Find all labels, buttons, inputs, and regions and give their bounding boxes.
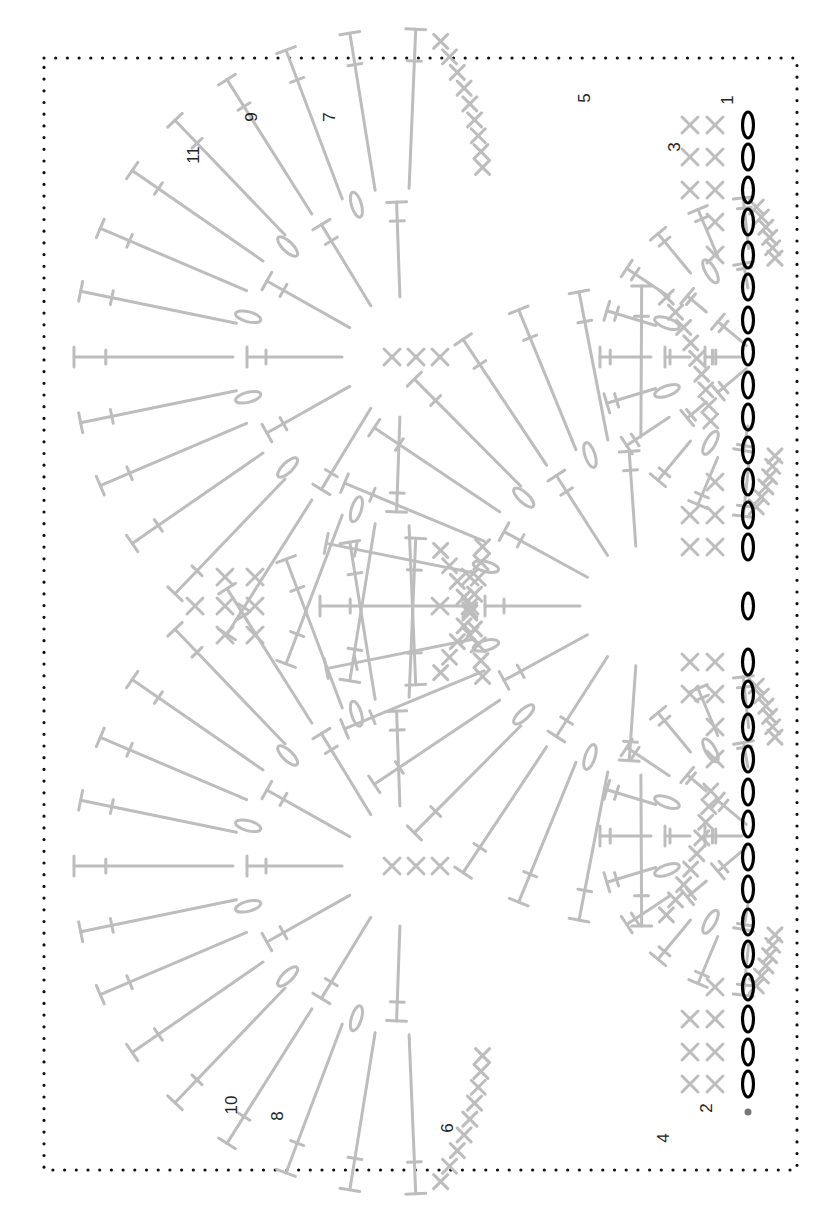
sc-stitch-icon bbox=[682, 182, 698, 198]
sc-stitch-icon bbox=[682, 654, 698, 670]
dc-stitch-icon bbox=[168, 479, 285, 601]
sc-stitch-icon bbox=[704, 414, 718, 428]
dc-stitch-icon bbox=[407, 372, 521, 486]
dc-stitch-icon bbox=[665, 347, 690, 367]
sc-stitch-icon bbox=[217, 569, 233, 585]
dc-stitch-icon bbox=[387, 926, 407, 1021]
dc-stitch-icon bbox=[604, 301, 656, 325]
row-label-3: 3 bbox=[665, 142, 684, 151]
chain-stitch-icon bbox=[348, 700, 365, 728]
dc-stitch-icon bbox=[681, 288, 707, 312]
dc-stitch-icon bbox=[341, 671, 484, 738]
sc-stitch-icon bbox=[682, 1044, 698, 1060]
dc-stitch-icon bbox=[262, 272, 350, 327]
sc-stitch-icon bbox=[707, 117, 723, 133]
chain-stitch-icon bbox=[581, 743, 599, 771]
dc-stitch-icon bbox=[499, 635, 587, 689]
chain-stitch-icon bbox=[511, 702, 537, 727]
dc-stitch-icon bbox=[632, 286, 652, 437]
dc-stitch-icon bbox=[247, 347, 342, 367]
dc-stitch-icon bbox=[79, 900, 237, 942]
dc-stitch-icon bbox=[604, 389, 656, 413]
dc-stitch-icon bbox=[262, 386, 350, 441]
dc-stitch-icon bbox=[650, 920, 690, 966]
sc-stitch-icon bbox=[247, 627, 263, 643]
sc-stitch-icon bbox=[707, 686, 723, 702]
foundation-chain-icon bbox=[743, 1039, 754, 1065]
dc-stitch-icon bbox=[689, 206, 718, 257]
sc-stitch-icon bbox=[707, 1044, 723, 1060]
chain-stitch-icon bbox=[234, 389, 262, 405]
dc-stitch-icon bbox=[79, 391, 237, 433]
sc-stitch-icon bbox=[187, 598, 203, 614]
dc-stitch-icon bbox=[126, 962, 262, 1061]
sc-stitch-icon bbox=[474, 654, 488, 668]
chain-stitch-icon bbox=[581, 441, 599, 469]
dc-stitch-icon bbox=[509, 762, 575, 906]
sc-stitch-icon bbox=[768, 449, 782, 463]
crochet-chart-svg: 1234567891011 bbox=[0, 0, 829, 1214]
foundation-chain-icon bbox=[743, 1006, 754, 1032]
fan-row-11 bbox=[74, 538, 490, 1194]
dc-stitch-icon bbox=[548, 470, 608, 555]
dc-stitch-icon bbox=[387, 711, 407, 806]
sc-stitch-icon bbox=[682, 686, 698, 702]
dc-stitch-icon bbox=[485, 596, 580, 616]
sc-stitch-icon bbox=[768, 928, 782, 942]
dc-stitch-icon bbox=[96, 219, 246, 291]
sc-stitch-icon bbox=[434, 34, 448, 48]
sc-stitch-icon bbox=[695, 831, 709, 845]
row-label-8: 8 bbox=[268, 1111, 287, 1120]
sc-stitch-icon bbox=[707, 539, 723, 555]
dc-stitch-icon bbox=[340, 1033, 375, 1192]
dc-stitch-icon bbox=[600, 826, 651, 846]
foundation-chain-icon bbox=[743, 876, 754, 902]
fan-row-11 bbox=[74, 29, 490, 685]
foundation-chain-icon bbox=[743, 1071, 754, 1097]
dc-stitch-icon bbox=[569, 290, 608, 440]
foundation-chain-icon bbox=[743, 534, 754, 560]
sc-stitch-icon bbox=[690, 847, 704, 861]
sc-stitch-icon bbox=[684, 336, 698, 350]
dc-stitch-icon bbox=[168, 113, 285, 235]
dc-stitch-icon bbox=[313, 917, 371, 1003]
stitch-fans bbox=[74, 29, 782, 1194]
chain-stitch-icon bbox=[348, 1004, 365, 1032]
sc-stitch-icon bbox=[468, 1096, 482, 1110]
chain-stitch-icon bbox=[234, 818, 262, 834]
dc-stitch-icon bbox=[219, 74, 312, 214]
sc-stitch-icon bbox=[434, 543, 448, 557]
sc-stitch-icon bbox=[707, 149, 723, 165]
dc-stitch-icon bbox=[168, 988, 285, 1110]
foundation-chain-icon bbox=[743, 177, 754, 203]
foundation-chain-icon bbox=[743, 339, 754, 365]
sc-stitch-icon bbox=[682, 149, 698, 165]
chain-stitch-icon bbox=[275, 964, 301, 989]
tr-stitch-icon bbox=[711, 848, 746, 879]
foundation-chain-icon bbox=[743, 779, 754, 805]
sc-stitch-icon bbox=[682, 539, 698, 555]
chain-stitch-icon bbox=[348, 191, 365, 219]
dc-stitch-icon bbox=[262, 895, 350, 950]
sc-stitch-icon bbox=[463, 1112, 477, 1126]
chain-stitch-icon bbox=[275, 455, 301, 480]
row-label-4: 4 bbox=[654, 1133, 673, 1142]
dc-stitch-icon bbox=[619, 451, 639, 546]
sc-stitch-icon bbox=[682, 1076, 698, 1092]
sc-stitch-icon bbox=[471, 129, 485, 143]
sc-stitch-icon bbox=[699, 383, 713, 397]
slip-stitch-icon bbox=[745, 1109, 752, 1116]
row-label-9: 9 bbox=[242, 112, 261, 121]
dc-stitch-icon bbox=[313, 728, 371, 814]
sc-stitch-icon bbox=[707, 979, 723, 995]
dc-stitch-icon bbox=[126, 162, 262, 261]
foundation-chain-icon bbox=[743, 112, 754, 138]
sc-stitch-icon bbox=[476, 160, 490, 174]
dc-stitch-icon bbox=[387, 202, 407, 297]
dc-stitch-icon bbox=[406, 1035, 426, 1194]
sc-stitch-icon bbox=[669, 305, 683, 319]
foundation-chain-icon bbox=[743, 593, 754, 619]
foundation-chain-icon bbox=[743, 844, 754, 870]
dc-stitch-icon bbox=[509, 306, 575, 450]
foundation-chain-icon bbox=[743, 372, 754, 398]
